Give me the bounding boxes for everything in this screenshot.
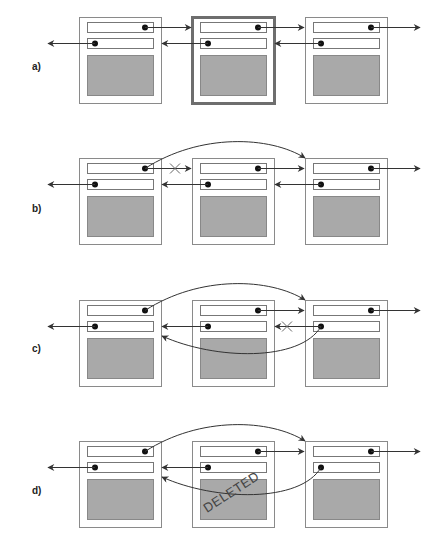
row-label: b) — [32, 203, 41, 214]
list-node — [306, 301, 388, 387]
list-node — [80, 442, 162, 528]
data-field — [314, 339, 380, 379]
list-node — [193, 18, 275, 104]
row-label: c) — [32, 343, 41, 354]
data-field — [201, 339, 267, 379]
list-node — [306, 159, 388, 245]
data-field — [88, 480, 154, 520]
list-node — [80, 159, 162, 245]
data-field — [201, 197, 267, 237]
data-field — [201, 56, 267, 96]
diagram-row-b: b) — [32, 142, 420, 245]
data-field — [314, 197, 380, 237]
list-node — [80, 18, 162, 104]
data-field — [88, 56, 154, 96]
list-node — [80, 301, 162, 387]
list-node — [193, 301, 275, 387]
data-field — [314, 56, 380, 96]
diagram-row-d: d)DELETED — [32, 425, 420, 528]
row-label: d) — [32, 485, 41, 496]
data-field — [314, 480, 380, 520]
diagram-row-c: c) — [32, 284, 420, 387]
list-node — [306, 442, 388, 528]
list-node — [193, 159, 275, 245]
data-field — [88, 197, 154, 237]
row-label: a) — [32, 61, 41, 72]
list-node — [306, 18, 388, 104]
data-field — [88, 339, 154, 379]
diagram-row-a: a) — [32, 18, 420, 104]
linked-list-diagram: a)b)c)d)DELETED — [0, 0, 438, 542]
